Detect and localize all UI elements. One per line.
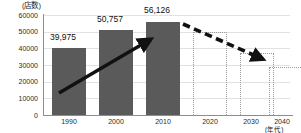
x-tick-label-1990: 1990 (49, 118, 89, 125)
y-tick-label-20000: 20000 (0, 78, 38, 85)
plot-area (44, 15, 290, 115)
x-axis-unit-label: (年代) (265, 124, 283, 133)
bar-2020-projected (193, 32, 227, 115)
y-tick-label-10000: 10000 (0, 95, 38, 102)
x-tick-label-2000: 2000 (96, 118, 136, 125)
value-label-2000: 50,757 (84, 14, 136, 24)
y-tick-label-30000: 30000 (0, 62, 38, 69)
bar-2040-projected (269, 67, 301, 115)
y-tick-label-40000: 40000 (0, 45, 38, 52)
value-label-1990: 39,975 (37, 32, 89, 42)
bar-2000 (99, 30, 133, 115)
bar-2010 (146, 22, 180, 116)
gridline-60000 (44, 15, 290, 16)
y-tick-label-0: 0 (0, 112, 38, 119)
y-tick-label-60000: 60000 (0, 12, 38, 19)
x-tick-label-2010: 2010 (143, 118, 183, 125)
x-axis-line (43, 115, 293, 116)
y-tick-label-50000: 50000 (0, 28, 38, 35)
bar-1990 (52, 48, 86, 115)
value-label-2010: 56,126 (131, 5, 183, 15)
bar-chart: (店数) 60000 50000 40000 30000 20000 10000… (0, 0, 301, 133)
y-axis-unit-label: (店数) (22, 0, 41, 10)
x-tick-label-2020: 2020 (190, 118, 230, 125)
